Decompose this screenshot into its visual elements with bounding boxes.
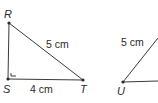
vertex-u-point — [121, 80, 124, 83]
vertex-t-label: T — [80, 83, 88, 95]
vertex-r-point — [7, 21, 10, 24]
right-angle-marker-icon — [11, 73, 16, 76]
vertex-s-point — [6, 77, 9, 80]
side-rt-length: 5 cm — [46, 38, 69, 50]
triangle-u: U 5 cm — [117, 36, 158, 97]
vertex-r-label: R — [4, 8, 12, 20]
side-u-upper-length: 5 cm — [121, 36, 144, 48]
side-rt — [9, 23, 83, 80]
side-st-length: 4 cm — [30, 83, 53, 95]
side-rs — [8, 23, 9, 79]
vertex-s-label: S — [3, 83, 11, 95]
vertex-t-point — [81, 78, 84, 81]
triangle-rst: R S T 5 cm 4 cm — [3, 8, 88, 95]
side-u-base — [123, 81, 158, 82]
geometry-diagram: R S T 5 cm 4 cm U 5 cm — [0, 0, 158, 103]
side-st — [8, 79, 83, 80]
vertex-u-label: U — [117, 85, 125, 97]
